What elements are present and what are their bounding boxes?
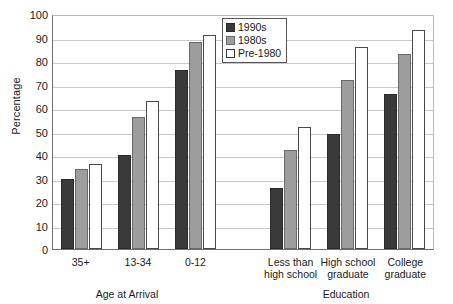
y-tick-10: 10: [36, 221, 48, 233]
bar-group-13-34: [110, 16, 167, 249]
x-axis-category-labels: 35+13-340-12Less thanhigh schoolHigh sch…: [52, 253, 434, 287]
x-label-line: Less than: [262, 257, 319, 269]
bar-1980s-college-graduate: [398, 54, 411, 249]
x-label-high-school-graduate: High schoolgraduate: [319, 253, 376, 287]
bar-pre-1980-college-graduate: [412, 30, 425, 249]
x-label-line: graduate: [319, 269, 376, 281]
y-tick-80: 80: [36, 56, 48, 68]
legend-item-1980s: 1980s: [226, 34, 281, 47]
legend-swatch-icon: [226, 49, 235, 58]
y-tick-0: 0: [42, 244, 48, 256]
legend-item-pre-1980: Pre-1980: [226, 47, 281, 60]
x-label-0-12: 0-12: [167, 253, 224, 287]
bar-1980s-13-34: [132, 117, 145, 249]
bar-pre-1980-35: [89, 164, 102, 249]
y-axis-tick-labels: 1009080706050403020100: [16, 0, 52, 304]
x-label-35: 35+: [52, 253, 109, 287]
bar-group-college-graduate: [376, 16, 433, 249]
y-tick-100: 100: [30, 9, 48, 21]
x-label-line: 0-12: [167, 257, 224, 269]
y-tick-30: 30: [36, 174, 48, 186]
y-tick-40: 40: [36, 150, 48, 162]
legend-label: 1990s: [238, 22, 267, 33]
x-label-13-34: 13-34: [109, 253, 166, 287]
legend: 1990s1980sPre-1980: [222, 18, 287, 63]
bar-group-high-school-graduate: [319, 16, 376, 249]
bar-pre-1980-high-school-graduate: [355, 47, 368, 249]
x-label-college-graduate: Collegegraduate: [377, 253, 434, 287]
bar-1980s-0-12: [189, 42, 202, 249]
legend-label: Pre-1980: [238, 48, 281, 59]
y-tick-90: 90: [36, 33, 48, 45]
bar-1990s-high-school-graduate: [327, 134, 340, 249]
x-label-line: 13-34: [109, 257, 166, 269]
legend-item-1990s: 1990s: [226, 21, 281, 34]
x-label-line: College: [377, 257, 434, 269]
bar-group-0-12: [167, 16, 224, 249]
x-label-spacer: [224, 253, 262, 287]
bar-pre-1980-less-than-high-school: [298, 127, 311, 249]
x-label-line: graduate: [377, 269, 434, 281]
bar-pre-1980-13-34: [146, 101, 159, 249]
y-tick-20: 20: [36, 197, 48, 209]
bar-1980s-35: [75, 169, 88, 249]
bar-1990s-college-graduate: [384, 94, 397, 249]
panel-title-education: Education: [258, 288, 434, 300]
x-label-line: High school: [319, 257, 376, 269]
legend-label: 1980s: [238, 35, 267, 46]
y-tick-50: 50: [36, 127, 48, 139]
bar-group-35: [53, 16, 110, 249]
bar-1990s-0-12: [175, 70, 188, 249]
legend-swatch-icon: [226, 36, 235, 45]
y-tick-60: 60: [36, 103, 48, 115]
x-label-less-than-high-school: Less thanhigh school: [262, 253, 319, 287]
bar-1980s-high-school-graduate: [341, 80, 354, 249]
x-label-line: 35+: [52, 257, 109, 269]
x-label-line: high school: [262, 269, 319, 281]
bar-1990s-13-34: [118, 155, 131, 249]
legend-swatch-icon: [226, 23, 235, 32]
bar-pre-1980-0-12: [203, 35, 216, 249]
bar-chart: Percentage 1009080706050403020100 35+13-…: [0, 0, 453, 304]
bar-1990s-less-than-high-school: [270, 188, 283, 249]
bar-1980s-less-than-high-school: [284, 150, 297, 249]
bar-1990s-35: [61, 179, 74, 250]
y-tick-70: 70: [36, 80, 48, 92]
panel-title-age-at-arrival: Age at Arrival: [52, 288, 202, 300]
